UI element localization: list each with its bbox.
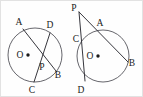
right-center-label: O — [87, 51, 94, 61]
left-label-b: B — [55, 70, 61, 80]
left-center-dot — [26, 53, 29, 56]
right-label-d: D — [78, 85, 85, 95]
right-diagram-group: O P A C B D — [71, 3, 135, 95]
left-label-c: C — [29, 85, 35, 95]
left-diagram-group: O A D B C P — [8, 17, 62, 95]
left-chord-dc — [34, 33, 50, 82]
left-label-d: D — [47, 20, 54, 30]
right-label-c: C — [73, 34, 79, 44]
right-label-b: B — [129, 58, 135, 68]
right-label-p: P — [71, 3, 76, 13]
right-center-dot — [96, 54, 99, 57]
right-label-a: A — [97, 18, 104, 28]
left-center-label: O — [17, 50, 24, 60]
left-label-p: P — [39, 62, 44, 72]
geometry-figure-panel: O A D B C P O P A C B D — [0, 0, 143, 97]
left-label-a: A — [16, 17, 23, 27]
geometry-canvas: O A D B C P O P A C B D — [0, 0, 143, 97]
